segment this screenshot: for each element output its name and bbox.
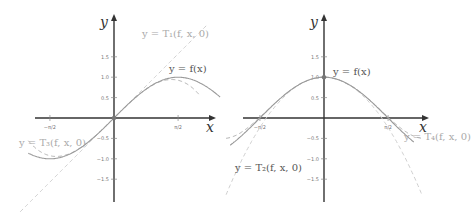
t4-label: y = T₄(f, x, 0) xyxy=(403,131,471,142)
y-tick-label: 1.5 xyxy=(311,54,319,60)
t1-label: y = T₁(f, x, 0) xyxy=(141,28,209,39)
y-tick-label: −0.5 xyxy=(307,135,319,141)
x-axis-label: x xyxy=(206,119,214,135)
left-chart-sine: yx1.51.00.5−0.5−1.0−1.5−π/2π/2y = T₁(f, … xyxy=(18,14,220,212)
x-tick-label: −π/2 xyxy=(44,124,56,130)
y-tick-label: −1.5 xyxy=(307,176,319,182)
y-axis-arrow-icon xyxy=(321,14,327,21)
y-tick-label: −1.0 xyxy=(307,156,319,162)
t3-label: y = T₃(f, x, 0) xyxy=(18,137,86,148)
y-tick-label: −0.5 xyxy=(97,135,109,141)
y-tick-label: 0.5 xyxy=(311,95,319,101)
taylor-charts: yx1.51.00.5−0.5−1.0−1.5−π/2π/2y = T₁(f, … xyxy=(0,0,475,214)
x-tick-label: −π/2 xyxy=(254,124,266,130)
y-axis-label: y xyxy=(99,14,109,30)
origin-point xyxy=(112,116,116,120)
y-tick-label: −1.0 xyxy=(97,156,109,162)
right-chart-cosine: yx1.51.00.5−0.5−1.0−1.5−π/2π/2y = f(x)y … xyxy=(226,14,471,202)
y-axis-arrow-icon xyxy=(111,14,117,21)
y-axis-label: y xyxy=(309,14,319,30)
y-tick-label: 1.0 xyxy=(101,74,109,80)
f-label: y = f(x) xyxy=(168,63,207,74)
y-tick-label: −1.5 xyxy=(97,176,109,182)
y-tick-label: 0.5 xyxy=(101,95,109,101)
y-tick-label: 1.5 xyxy=(101,54,109,60)
f-curve xyxy=(230,77,414,145)
t2-label: y = T₂(f, x, 0) xyxy=(234,162,302,173)
f0-point xyxy=(322,75,326,79)
f-label: y = f(x) xyxy=(332,66,371,77)
x-tick-label: π/2 xyxy=(384,124,392,130)
x-tick-label: π/2 xyxy=(174,124,182,130)
